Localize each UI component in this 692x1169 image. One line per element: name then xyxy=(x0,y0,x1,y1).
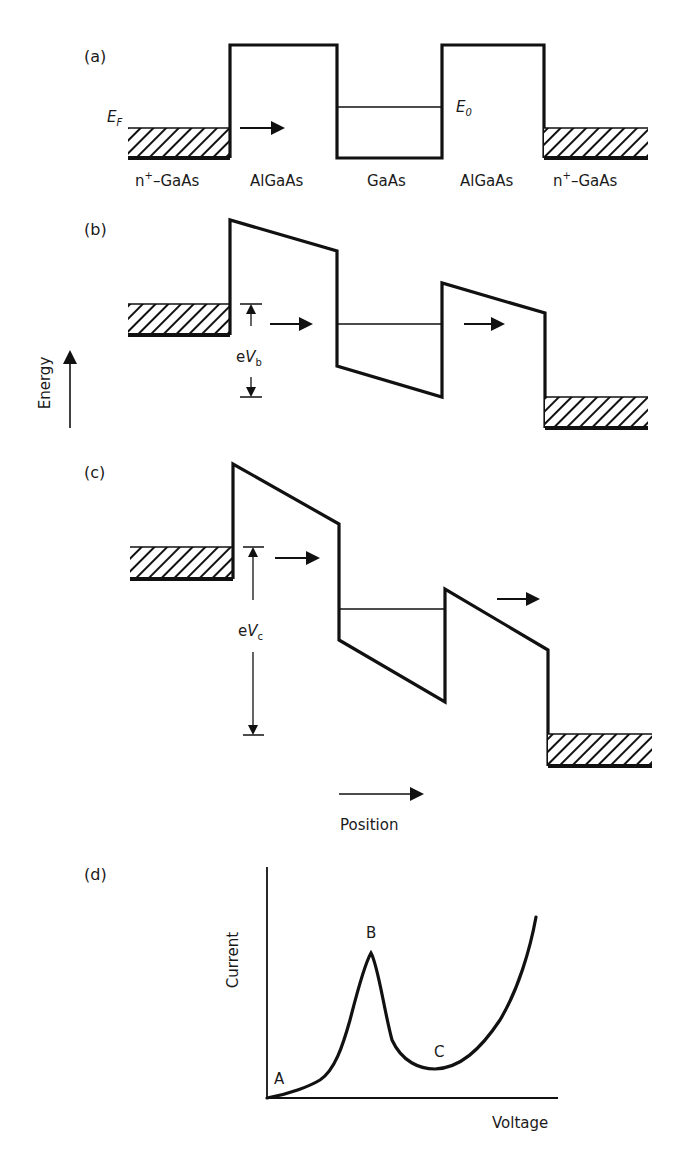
emitter-hatch-b xyxy=(128,304,230,335)
voltage-label-vc: eVc xyxy=(238,622,263,642)
resonant-tunneling-figure: (a) EF E0 n+–GaAs AlGaAs GaAs AlGaAs n+–… xyxy=(0,0,692,1169)
conduction-band-c xyxy=(233,464,548,766)
panel-d: (d) Current Voltage A B C xyxy=(84,865,558,1132)
x-axis-label: Voltage xyxy=(492,1114,548,1132)
panel-a: (a) EF E0 n+–GaAs AlGaAs GaAs AlGaAs n+–… xyxy=(84,45,648,190)
fermi-label: EF xyxy=(107,108,122,128)
collector-hatch-c xyxy=(548,734,652,766)
conduction-band-a xyxy=(230,45,544,158)
energy-axis-label: Energy xyxy=(36,357,54,410)
panel-d-label: (d) xyxy=(84,865,107,884)
point-a-label: A xyxy=(274,1070,285,1088)
voltage-label-vb: eVb xyxy=(236,348,262,368)
position-axis-label: Position xyxy=(340,816,398,834)
emitter-hatch-a xyxy=(128,128,230,158)
e0-label: E0 xyxy=(456,98,472,118)
point-c-label: C xyxy=(434,1043,444,1061)
collector-hatch-a xyxy=(544,128,648,158)
region-label-well: GaAs xyxy=(367,172,406,190)
panel-b: (b) eVb Energy xyxy=(36,220,648,428)
panel-a-label: (a) xyxy=(84,47,106,66)
region-label-emitter: n+–GaAs xyxy=(135,170,199,190)
region-label-barrier-1: AlGaAs xyxy=(250,172,304,190)
y-axis-label: Current xyxy=(224,932,242,988)
collector-hatch-b xyxy=(545,397,648,428)
panel-c-label: (c) xyxy=(84,463,105,482)
emitter-hatch-c xyxy=(130,547,233,579)
point-b-label: B xyxy=(366,924,376,942)
region-label-barrier-2: AlGaAs xyxy=(460,172,514,190)
panel-c: (c) eVc Position xyxy=(84,463,652,834)
region-label-collector: n+–GaAs xyxy=(553,170,617,190)
panel-b-label: (b) xyxy=(84,220,107,239)
iv-curve xyxy=(267,917,536,1098)
